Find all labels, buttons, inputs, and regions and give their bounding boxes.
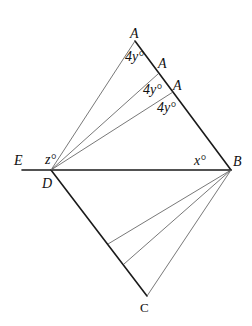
angle-label-4y-2: 4y° — [143, 82, 162, 97]
label-A1: A — [129, 26, 139, 41]
angle-label-4y-1: 4y° — [125, 49, 144, 64]
angle-label-x: x° — [193, 153, 206, 168]
geometry-diagram: A A A B D E C 4y° 4y° 4y° x° z° — [0, 0, 252, 326]
segment-D-C — [51, 170, 147, 296]
angle-label-4y-3: 4y° — [157, 100, 176, 115]
angle-label-z: z° — [44, 152, 56, 167]
label-C: C — [140, 300, 149, 315]
label-E: E — [13, 153, 23, 168]
label-D: D — [41, 176, 52, 191]
label-A2: A — [157, 56, 167, 71]
label-A3: A — [172, 78, 182, 93]
segment-B-P1 — [108, 170, 231, 244]
segment-A-B — [135, 41, 231, 170]
segment-D-A3 — [51, 92, 173, 170]
label-B: B — [233, 154, 242, 169]
